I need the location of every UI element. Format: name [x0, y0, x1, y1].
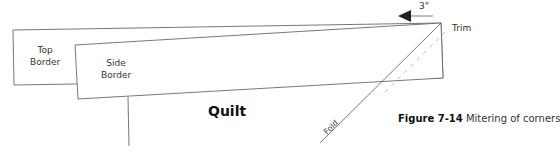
arrow-left-icon — [398, 10, 411, 22]
figure-title: Mitering of corners — [466, 113, 560, 124]
quilt-label: Quilt — [208, 103, 246, 119]
top-border-label: Top Border — [30, 44, 60, 68]
trim-label: Trim — [452, 22, 471, 34]
top-border-label-line2: Border — [30, 56, 60, 68]
side-border-label: Side Border — [101, 57, 131, 81]
side-border-label-line2: Border — [101, 69, 131, 81]
quilt-edge-line — [128, 97, 129, 146]
side-border-label-line1: Side — [101, 57, 131, 69]
top-border-label-line1: Top — [30, 44, 60, 56]
figure-caption: Figure 7-14 Mitering of corners — [398, 113, 560, 124]
figure-number: Figure 7-14 — [398, 113, 463, 124]
measure-label: 3" — [419, 0, 429, 12]
